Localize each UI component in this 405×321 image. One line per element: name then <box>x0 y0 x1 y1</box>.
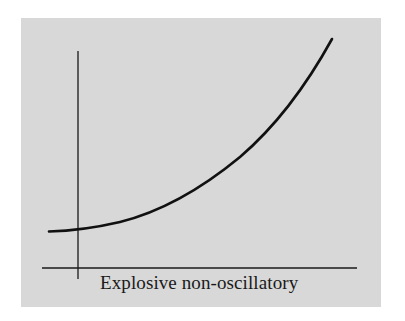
chart-caption: Explosive non-oscillatory <box>100 272 330 294</box>
explosive-curve <box>49 39 332 232</box>
